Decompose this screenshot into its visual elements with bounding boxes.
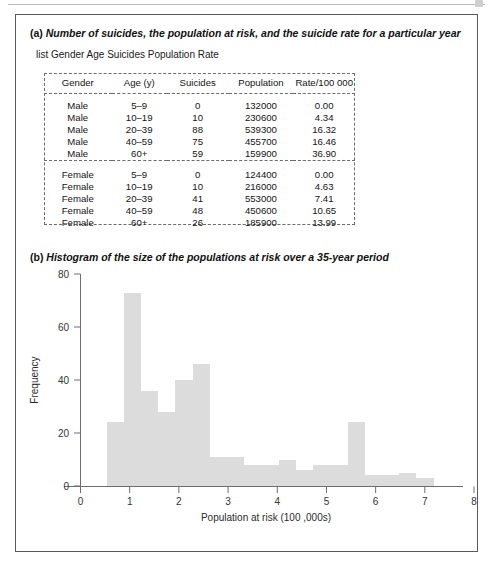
y-axis-title: Frequency: [29, 356, 40, 403]
histogram-bar: [124, 293, 141, 486]
histogram-bar: [416, 478, 433, 486]
y-tick-label: 20: [58, 428, 70, 439]
histogram-bar: [313, 465, 330, 486]
histogram-bar: [141, 391, 158, 486]
histogram-chart: 020406080 012345678 Frequency Population…: [16, 15, 477, 551]
histogram-bar: [107, 422, 124, 486]
y-tick-label: 40: [58, 375, 70, 386]
histogram-bar: [382, 475, 399, 486]
y-tick-label: 0: [63, 481, 69, 492]
x-tick-label: 4: [274, 496, 280, 507]
x-tick-label: 0: [78, 496, 84, 507]
histogram-bar: [399, 473, 416, 486]
x-tick-label: 1: [127, 496, 133, 507]
histogram-bars: [107, 293, 434, 486]
histogram-bar: [348, 422, 365, 486]
x-tick-label: 3: [225, 496, 231, 507]
histogram-bar: [296, 470, 313, 486]
figure-frame: (a) Number of suicides, the population a…: [15, 14, 478, 552]
histogram-bar: [193, 364, 210, 486]
histogram-bar: [279, 460, 296, 487]
histogram-bar: [330, 465, 347, 486]
page-corner-mark: [475, 0, 483, 7]
y-tick-label: 80: [58, 269, 70, 280]
x-axis-ticks: 012345678: [78, 487, 477, 508]
x-tick-label: 7: [422, 496, 428, 507]
histogram-bar: [244, 465, 261, 486]
page-top-rule: [8, 4, 485, 5]
x-tick-label: 6: [373, 496, 379, 507]
histogram-bar: [210, 457, 227, 486]
histogram-bar: [262, 465, 279, 486]
histogram-bar: [227, 457, 244, 486]
figure-page: (a) Number of suicides, the population a…: [0, 0, 493, 564]
y-tick-label: 60: [58, 322, 70, 333]
y-axis-ticks: 020406080: [58, 269, 81, 492]
histogram-bar: [175, 380, 192, 486]
x-tick-label: 2: [176, 496, 182, 507]
x-tick-label: 8: [471, 496, 477, 507]
x-tick-label: 5: [324, 496, 330, 507]
x-axis-title: Population at risk (100 ,000s): [201, 512, 331, 523]
histogram-bar: [365, 475, 382, 486]
histogram-bar: [158, 412, 175, 486]
